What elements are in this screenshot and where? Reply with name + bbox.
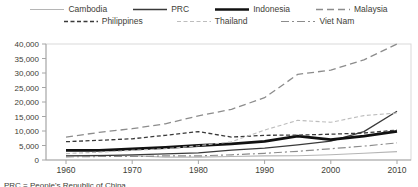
legend-item-malaysia: Malaysia xyxy=(316,4,388,14)
y-tick-label: 0 xyxy=(35,156,40,165)
chart-figure: Cambodia PRC Indonesia Malaysia Philippi… xyxy=(0,0,418,187)
y-tick-label: 10,000 xyxy=(15,127,40,136)
legend-label: Philippines xyxy=(102,16,143,26)
y-tick-label: 30,000 xyxy=(15,69,40,78)
legend-label: PRC xyxy=(171,4,189,14)
legend-label: Malaysia xyxy=(354,4,388,14)
y-tick-label: 5,000 xyxy=(19,142,40,151)
x-tick-label: 1980 xyxy=(189,165,208,175)
footnote: PRC = People's Republic of China. xyxy=(4,181,128,187)
legend-item-prc: PRC xyxy=(133,4,189,14)
legend-item-vietnam: Viet Nam xyxy=(281,16,354,26)
x-tick-label: 1970 xyxy=(123,165,142,175)
legend-row-1: Cambodia PRC Indonesia Malaysia xyxy=(0,4,418,14)
legend-row-2: Philippines Thailand Viet Nam xyxy=(0,16,418,26)
y-tick-label: 15,000 xyxy=(15,113,40,122)
x-tick-label: 1990 xyxy=(255,165,274,175)
legend-item-cambodia: Cambodia xyxy=(30,4,107,14)
line-sample-icon xyxy=(133,5,167,14)
legend-label: Cambodia xyxy=(68,4,107,14)
y-tick-label: 25,000 xyxy=(15,84,40,93)
series-line-malaysia xyxy=(66,44,397,137)
legend-label: Thailand xyxy=(215,16,248,26)
legend-label: Indonesia xyxy=(253,4,290,14)
y-tick-label: 20,000 xyxy=(15,98,40,107)
legend-item-thailand: Thailand xyxy=(177,16,248,26)
line-chart-plot: 05,00010,00015,00020,00025,00030,00035,0… xyxy=(0,0,418,187)
x-axis-ticks: 196019701980199020002010 xyxy=(57,160,407,175)
x-tick-label: 2000 xyxy=(321,165,340,175)
line-sample-icon xyxy=(281,17,315,26)
y-axis-ticks: 05,00010,00015,00020,00025,00030,00035,0… xyxy=(15,40,46,165)
legend-item-indonesia: Indonesia xyxy=(215,4,290,14)
chart-legend: Cambodia PRC Indonesia Malaysia Philippi… xyxy=(0,4,418,26)
x-tick-label: 1960 xyxy=(57,165,76,175)
y-tick-label: 35,000 xyxy=(15,55,40,64)
line-sample-icon xyxy=(215,5,249,14)
x-tick-label: 2010 xyxy=(388,165,407,175)
y-tick-label: 40,000 xyxy=(15,40,40,49)
line-sample-icon xyxy=(316,5,350,14)
legend-label: Viet Nam xyxy=(319,16,354,26)
line-sample-icon xyxy=(30,5,64,14)
line-sample-icon xyxy=(177,17,211,26)
legend-item-philippines: Philippines xyxy=(64,16,143,26)
line-sample-icon xyxy=(64,17,98,26)
